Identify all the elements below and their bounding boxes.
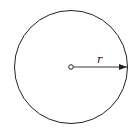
center-point (69, 65, 74, 70)
circle-diagram: r (0, 0, 134, 134)
radius-label: r (97, 53, 103, 66)
